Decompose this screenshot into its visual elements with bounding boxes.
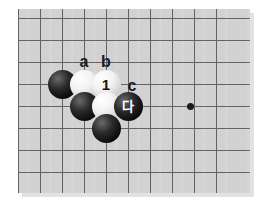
grid-line-vertical-1 xyxy=(40,9,41,193)
black-stone-marked[interactable]: 다 xyxy=(114,92,143,121)
black-stone-bottom[interactable] xyxy=(92,114,121,143)
grid-line-horizontal-0 xyxy=(18,18,250,19)
go-diagram-figure: 1다 abc xyxy=(0,0,258,209)
grid-line-horizontal-7 xyxy=(18,172,250,173)
go-board[interactable]: 1다 abc xyxy=(18,9,250,193)
grid-line-vertical-7 xyxy=(172,9,173,193)
grid-line-vertical-0 xyxy=(18,9,19,193)
grid-line-vertical-2 xyxy=(62,9,63,193)
grid-line-horizontal-1 xyxy=(18,40,250,41)
point-label-b: b xyxy=(101,54,111,70)
grid-line-horizontal-6 xyxy=(18,150,250,151)
star-point-right xyxy=(187,103,194,110)
grid-line-vertical-6 xyxy=(150,9,151,193)
point-label-c: c xyxy=(128,78,137,94)
grid-line-horizontal-5 xyxy=(18,128,250,129)
point-label-a: a xyxy=(80,54,89,70)
grid-line-vertical-9 xyxy=(216,9,217,193)
grid-line-horizontal-2 xyxy=(18,62,250,63)
black-stone-marked-label: 다 xyxy=(114,92,143,121)
grid-line-vertical-8 xyxy=(194,9,195,193)
